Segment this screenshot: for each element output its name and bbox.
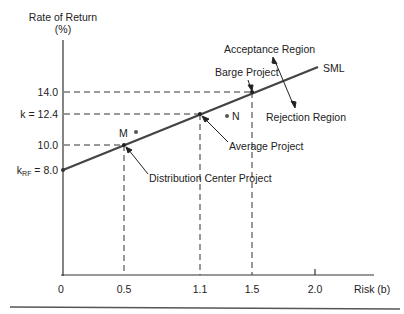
point-krf xyxy=(61,168,65,172)
y-tick-12-4: k = 12.4 xyxy=(20,108,58,120)
sml-label: SML xyxy=(323,62,345,74)
distribution-arrow xyxy=(126,147,148,174)
acceptance-label: Acceptance Region xyxy=(224,43,315,55)
label-n: N xyxy=(232,110,240,122)
x-tick-0: 0 xyxy=(58,283,64,295)
x-tick-0-5: 0.5 xyxy=(117,283,132,295)
barge-label: Barge Project xyxy=(215,66,279,78)
x-tick-2-0: 2.0 xyxy=(308,283,323,295)
barge-arrow xyxy=(248,80,253,91)
bottom-rule xyxy=(10,307,400,309)
y-axis-unit: (%) xyxy=(55,23,71,35)
point-m xyxy=(134,130,138,134)
x-tick-1-1: 1.1 xyxy=(193,283,208,295)
y-axis-label: Rate of Return xyxy=(29,11,97,23)
rejection-label: Rejection Region xyxy=(266,111,346,123)
distribution-label: Distribution Center Project xyxy=(149,172,272,184)
x-tick-1-5: 1.5 xyxy=(245,283,260,295)
label-m: M xyxy=(119,127,128,139)
x-axis-label: Risk (b) xyxy=(354,283,390,295)
average-arrow xyxy=(202,116,228,142)
sml-chart: Rate of Return (%) M N 14.0 k = 12.4 10.… xyxy=(0,0,404,314)
average-label: Average Project xyxy=(229,140,304,152)
y-tick-krf: kRF = 8.0 xyxy=(17,164,58,177)
region-arrow xyxy=(272,57,296,108)
y-tick-10: 10.0 xyxy=(38,139,59,151)
point-n xyxy=(225,114,229,118)
y-tick-14: 14.0 xyxy=(38,86,59,98)
